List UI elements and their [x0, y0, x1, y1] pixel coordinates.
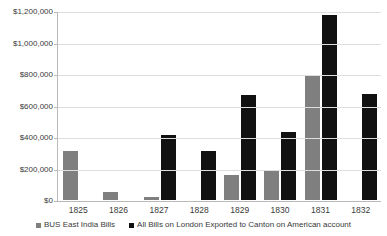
- y-axis-tick: [54, 44, 58, 45]
- y-axis-tick: [54, 107, 58, 108]
- gridline: [58, 138, 381, 139]
- legend-swatch-icon: [129, 223, 134, 228]
- y-axis-tick: [54, 138, 58, 139]
- x-axis-label: 1830: [260, 203, 300, 215]
- x-axis-label: 1831: [300, 203, 340, 215]
- legend-entry: BUS East India Bills: [36, 221, 115, 229]
- y-axis-label: $200,000: [0, 166, 53, 174]
- bar: [224, 175, 239, 200]
- y-axis-label: $1,000,000: [0, 40, 53, 48]
- bar: [241, 95, 256, 200]
- gridline: [58, 44, 381, 45]
- x-axis-label: 1826: [98, 203, 138, 215]
- y-axis-label: $0: [0, 197, 53, 205]
- gridline: [58, 12, 381, 13]
- x-axis-label: 1825: [58, 203, 98, 215]
- x-axis: 18251826182718281829183018311832: [58, 203, 381, 215]
- gridline: [58, 107, 381, 108]
- bar: [362, 94, 377, 200]
- y-axis-label: $400,000: [0, 134, 53, 142]
- legend-entry: All Bills on London Exported to Canton o…: [129, 221, 351, 229]
- y-axis-tick: [54, 75, 58, 76]
- y-axis-label: $800,000: [0, 71, 53, 79]
- x-axis-label: 1832: [341, 203, 381, 215]
- y-axis-tick: [54, 12, 58, 13]
- bar: [103, 192, 118, 200]
- bar: [144, 197, 159, 200]
- bar: [281, 132, 296, 200]
- legend-label: BUS East India Bills: [44, 221, 115, 229]
- gridline: [58, 75, 381, 76]
- bar: [264, 170, 279, 200]
- bar: [161, 135, 176, 200]
- x-axis-label: 1828: [179, 203, 219, 215]
- legend-swatch-icon: [36, 223, 41, 228]
- bar: [201, 151, 216, 200]
- chart-legend: BUS East India BillsAll Bills on London …: [0, 221, 387, 229]
- gridline: [58, 170, 381, 171]
- y-axis-label: $1,200,000: [0, 8, 53, 16]
- y-axis-label: $600,000: [0, 103, 53, 111]
- x-axis-label: 1829: [220, 203, 260, 215]
- x-axis-label: 1827: [139, 203, 179, 215]
- bar: [63, 151, 78, 200]
- y-axis-tick: [54, 170, 58, 171]
- legend-label: All Bills on London Exported to Canton o…: [137, 221, 351, 229]
- y-axis-tick: [54, 201, 58, 202]
- bar-chart: $0$200,000$400,000$600,000$800,000$1,000…: [0, 0, 387, 236]
- plot-area: [57, 12, 381, 202]
